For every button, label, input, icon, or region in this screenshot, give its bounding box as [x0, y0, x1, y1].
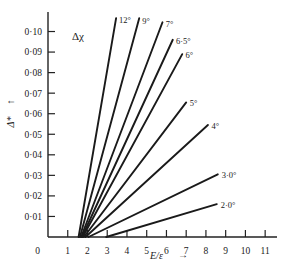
series-label-4: 4°	[211, 121, 219, 131]
x-tick-label: 2	[85, 246, 90, 256]
annotation-delta-chi: Δχ	[72, 30, 84, 42]
data-series-group	[79, 18, 218, 237]
x-tick-label: 5	[144, 246, 149, 256]
series-label-20: 2·0°	[221, 200, 236, 210]
data-line-6	[83, 54, 183, 237]
series-label-65: 6·5°	[176, 36, 191, 46]
data-line-4	[86, 125, 208, 237]
chart-figure: 00·010·020·030·040·050·060·070·080·090·1…	[0, 0, 294, 265]
y-axis-label-group: Δ* ↑	[5, 100, 16, 129]
series-label-5: 5°	[190, 98, 198, 108]
x-tick-label: 4	[125, 246, 130, 256]
y-axis-label: Δ*	[5, 117, 16, 129]
y-tick-label: 0·06	[25, 109, 43, 119]
x-tick-label: 8	[204, 246, 209, 256]
y-tick-label: 0·09	[25, 47, 43, 57]
y-tick-label: 0·10	[25, 27, 43, 37]
series-label-30: 3·0°	[222, 170, 237, 180]
y-tick-label: 0·07	[25, 89, 43, 99]
x-axis-label: E/ε	[149, 250, 163, 261]
x-tick-label: 9	[223, 246, 228, 256]
y-axis-tick-labels: 00·010·020·030·040·050·060·070·080·090·1…	[25, 27, 43, 256]
y-tick-label-zero: 0	[35, 246, 40, 256]
y-tick-label: 0·08	[25, 68, 43, 78]
x-axis-tick-labels: 1234567891011	[65, 246, 270, 256]
y-tick-label: 0·04	[25, 150, 43, 160]
series-label-12: 12°	[119, 15, 131, 25]
x-tick-label: 3	[105, 246, 110, 256]
series-label-9: 9°	[142, 16, 150, 26]
series-label-7: 7°	[166, 19, 174, 29]
x-tick-label: 1	[65, 246, 70, 256]
y-tick-label: 0·03	[25, 171, 43, 181]
x-tick-label: 6	[164, 246, 169, 256]
y-tick-label: 0·01	[25, 212, 43, 222]
y-tick-label: 0·05	[25, 130, 43, 140]
x-tick-label: 11	[261, 246, 270, 256]
y-axis-ticks	[48, 32, 55, 217]
x-axis-arrow-icon: →	[178, 249, 188, 260]
y-axis-arrow-icon: ↑	[5, 100, 16, 105]
series-label-6: 6°	[185, 50, 193, 60]
axes-group	[48, 12, 277, 237]
x-tick-label: 10	[241, 246, 251, 256]
y-tick-label: 0·02	[25, 191, 43, 201]
